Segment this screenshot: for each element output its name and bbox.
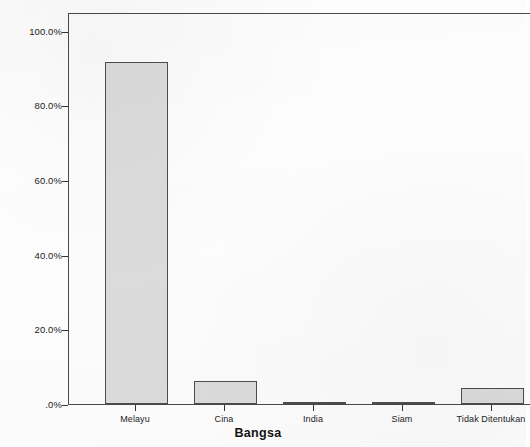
bar-slot [461,14,524,404]
bar-cina[interactable] [194,381,257,404]
y-tick-label: 60.0% [6,175,62,186]
bar-india[interactable] [283,402,346,404]
bar-slot [194,14,257,404]
y-tick-label: 80.0% [6,100,62,111]
bar-melayu[interactable] [105,62,168,404]
x-tick-label-cina: Cina [215,414,234,424]
x-tick-mark [402,405,403,411]
bar-siam[interactable] [372,402,435,404]
bar-slot [372,14,435,404]
x-tick-mark [224,405,225,411]
x-tick-label-melayu: Melayu [120,414,150,424]
plot-area [68,13,530,405]
x-tick-mark [135,405,136,411]
x-tick-label-siam: Siam [392,414,413,424]
bar-tidak-ditentukan[interactable] [461,388,524,404]
y-tick-label: 40.0% [6,250,62,261]
x-tick-label-india: India [303,414,323,424]
y-tick-label: 100.0% [6,26,62,37]
x-tick-mark [313,405,314,411]
x-axis-title: Bangsa [0,426,526,440]
x-axis-title-text: Bangsa [235,426,282,440]
x-tick-mark [491,405,492,411]
y-axis-ticks: .0%20.0%40.0%60.0%80.0%100.0% [0,0,62,447]
bars-container [69,14,530,404]
y-tick-label: 20.0% [6,324,62,335]
bar-slot [105,14,168,404]
bar-slot [283,14,346,404]
x-tick-label-tidak-ditentukan: Tidak Ditentukan [457,414,526,424]
y-tick-label: .0% [6,399,62,410]
